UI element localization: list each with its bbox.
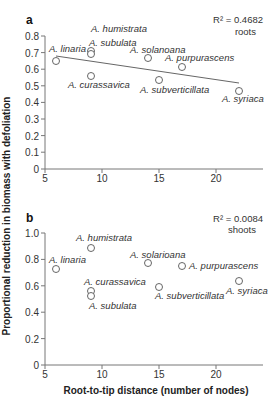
xtick: 10 — [96, 369, 108, 380]
r2-shoots: R² = 0.0084 — [213, 213, 263, 224]
label-humistrata: A. humistrata — [90, 23, 147, 34]
ytick: 0 — [33, 360, 39, 371]
label-linaria: A. linaria — [48, 254, 86, 265]
ytick: 1.0 — [25, 228, 39, 239]
point-syriaca — [236, 278, 243, 285]
panel-b-label: b — [26, 211, 33, 225]
y-axis-b: 1.0 0.8 0.6 0.4 0.2 0 — [25, 228, 45, 371]
label-syriaca: A. syriaca — [221, 93, 264, 104]
ytick: 0.3 — [25, 114, 39, 125]
label-purpurascens: A. purpurascens — [188, 260, 258, 271]
xtick: 20 — [210, 369, 222, 380]
label-subverticillata: A. subverticillata — [139, 84, 209, 95]
tissue-roots: roots — [235, 26, 256, 37]
label-linaria: A. linaria — [48, 43, 86, 54]
label-syriaca: A. syriaca — [225, 285, 268, 296]
ytick: 0.8 — [25, 31, 39, 42]
ytick: 0.4 — [25, 97, 39, 108]
xtick: 5 — [42, 369, 48, 380]
labels-a: A. linaria A. humistrata A. subulata A. … — [48, 23, 264, 104]
label-curassavica: A. curassavica — [83, 276, 146, 287]
x-axis-label: Root-to-tip distance (number of nodes) — [64, 385, 249, 396]
ytick: 0 — [33, 164, 39, 175]
ytick: 0.6 — [25, 281, 39, 292]
ytick: 0.7 — [25, 48, 39, 59]
label-subverticillata: A. subverticillata — [154, 290, 224, 301]
ytick: 0.5 — [25, 81, 39, 92]
point-solanoana — [145, 55, 152, 62]
label-humistrata: A. humistrata — [75, 232, 132, 243]
ytick: 0.2 — [25, 131, 39, 142]
labels-b: A. linaria A. humistrata A. curassavica … — [48, 232, 268, 311]
point-solarioana — [145, 260, 152, 267]
xtick: 10 — [96, 173, 108, 184]
point-humistrata — [88, 245, 95, 252]
panel-a: a R² = 0.4682 roots 0.8 0.7 0.6 0.5 0.4 … — [25, 13, 264, 184]
label-curassavica: A. curassavica — [67, 79, 130, 90]
x-axis-a: 5 10 15 20 — [42, 169, 263, 184]
point-subulata — [88, 293, 95, 300]
label-solarioana: A. solarioana — [129, 249, 185, 260]
label-purpurascens: A. purpurascens — [164, 52, 234, 63]
r2-roots: R² = 0.4682 — [213, 14, 263, 25]
xtick: 15 — [153, 369, 165, 380]
point-purpurascens — [179, 64, 186, 71]
point-purpurascens — [179, 263, 186, 270]
tissue-shoots: shoots — [228, 224, 256, 235]
point-linaria — [53, 266, 60, 273]
panel-b: b R² = 0.0084 shoots 1.0 0.8 0.6 0.4 0.2… — [25, 211, 268, 396]
ytick: 0.1 — [25, 147, 39, 158]
ytick: 0.8 — [25, 254, 39, 265]
point-linaria — [53, 58, 60, 65]
point-subverticillata — [156, 77, 163, 84]
y-axis-label: Proportional reduction in biomass with d… — [1, 97, 12, 336]
point-subulata — [88, 51, 95, 58]
ytick: 0.6 — [25, 64, 39, 75]
xtick: 20 — [210, 173, 222, 184]
xtick: 15 — [153, 173, 165, 184]
figure: Proportional reduction in biomass with d… — [0, 0, 279, 403]
label-subulata: A. subulata — [88, 300, 137, 311]
ytick: 0.2 — [25, 334, 39, 345]
xtick: 5 — [42, 173, 48, 184]
ytick: 0.4 — [25, 307, 39, 318]
y-axis-a: 0.8 0.7 0.6 0.5 0.4 0.3 0.2 0.1 0 — [25, 31, 45, 175]
x-axis-b: 5 10 15 20 Root-to-tip distance (number … — [42, 365, 263, 396]
panel-a-label: a — [26, 13, 33, 27]
